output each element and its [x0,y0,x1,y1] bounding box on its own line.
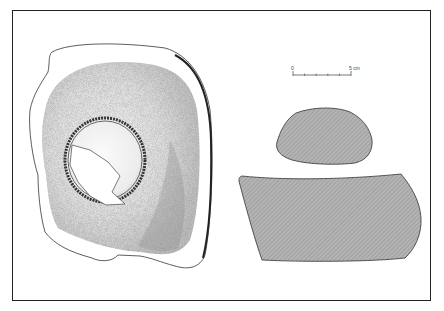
scale-bar: 0 5 cm [291,65,360,76]
artifact-drawing: 0 5 cm [0,0,444,311]
section-small [277,108,373,164]
plan-view [30,44,212,268]
section-large [239,174,421,261]
scale-end-label: 5 cm [349,65,360,71]
scale-start-label: 0 [291,65,294,71]
